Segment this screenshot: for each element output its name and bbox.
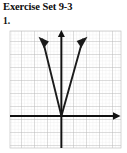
worksheet-page: Exercise Set 9-3 1. — [0, 0, 127, 153]
coordinate-graph — [8, 28, 123, 151]
problem-number-label: 1. — [3, 16, 10, 26]
grid-layer — [10, 31, 121, 148]
graph-figure — [8, 28, 123, 151]
page-title: Exercise Set 9-3 — [3, 1, 72, 12]
